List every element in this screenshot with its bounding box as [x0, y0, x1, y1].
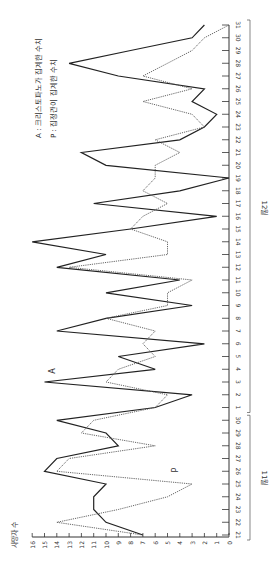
value-tick-label: 11 [90, 541, 97, 549]
date-tick-label: 9 [235, 304, 242, 308]
date-tick-label: 29 [235, 429, 242, 437]
value-tick-label: 12 [78, 541, 85, 549]
date-tick-label: 13 [235, 251, 242, 259]
value-tick-label: 8 [127, 541, 134, 545]
date-tick-label: 2 [235, 393, 242, 397]
date-tick-label: 8 [235, 316, 242, 320]
value-tick-label: 13 [66, 541, 73, 549]
month-bracket-dec [247, 20, 250, 413]
series-tag-p: P [171, 467, 180, 472]
value-tick-label: 7 [139, 541, 146, 545]
month-label-nov: 11월 [260, 471, 269, 486]
date-tick-label: 25 [235, 480, 242, 488]
date-tick-label: 3 [235, 380, 242, 384]
date-tick-label: 10 [235, 289, 242, 297]
date-tick-label: 27 [235, 455, 242, 463]
value-tick-label: 16 [29, 541, 36, 549]
date-tick-label: 24 [235, 493, 242, 501]
series-line-a [32, 25, 229, 535]
date-tick-label: 11 [235, 276, 242, 284]
date-tick-label: 4 [235, 367, 242, 371]
date-tick-label: 27 [235, 72, 242, 80]
date-tick-label: 14 [235, 238, 242, 246]
value-tick-label: 14 [53, 541, 60, 549]
date-tick-label: 22 [235, 136, 242, 144]
date-tick-label: 20 [235, 161, 242, 169]
date-tick-label: 7 [235, 329, 242, 333]
value-axis: 012345678910111213141516 [29, 533, 233, 549]
date-tick-label: 31 [235, 21, 242, 29]
month-bracket-nov [247, 415, 250, 540]
date-tick-label: 23 [235, 123, 242, 131]
date-tick-label: 17 [235, 200, 242, 208]
legend-item-a: A : 크리스토파노가 집계한 수치 [34, 38, 43, 138]
value-tick-label: 2 [201, 541, 208, 545]
value-tick-label: 5 [164, 541, 171, 545]
date-tick-label: 23 [235, 506, 242, 514]
series-tag-a: A [48, 368, 57, 374]
date-tick-label: 26 [235, 85, 242, 93]
series-line-p [57, 25, 229, 535]
date-tick-label: 1 [235, 406, 242, 410]
date-tick-label: 30 [235, 416, 242, 424]
date-tick-label: 15 [235, 225, 242, 233]
date-tick-label: 6 [235, 342, 242, 346]
legend-item-p: P : 집정관이 집계한 수치 [49, 59, 58, 138]
series-layer [32, 25, 229, 535]
value-tick-label: 3 [189, 541, 196, 545]
date-tick-label: 19 [235, 174, 242, 182]
date-tick-label: 30 [235, 34, 242, 42]
date-tick-label: 26 [235, 467, 242, 475]
date-tick-label: 24 [235, 110, 242, 118]
date-tick-label: 5 [235, 355, 242, 359]
date-tick-label: 12 [235, 263, 242, 271]
date-tick-label: 16 [235, 212, 242, 220]
date-tick-label: 28 [235, 442, 242, 450]
date-tick-label: 28 [235, 59, 242, 67]
chart-canvas: 012345678910111213141516 212223242526272… [0, 0, 279, 576]
date-tick-label: 21 [235, 149, 242, 157]
date-tick-label: 25 [235, 98, 242, 106]
line-chart: 012345678910111213141516 212223242526272… [0, 0, 279, 576]
date-axis: 2122232425262728293012345678910111213141… [222, 20, 250, 540]
value-tick-label: 15 [41, 541, 48, 549]
legend: A : 크리스토파노가 집계한 수치 P : 집정관이 집계한 수치 [34, 38, 58, 138]
month-label-dec: 12월 [260, 201, 269, 216]
value-tick-label: 10 [103, 541, 110, 549]
value-tick-label: 0 [226, 541, 233, 545]
date-tick-label: 29 [235, 47, 242, 55]
value-tick-label: 6 [152, 541, 159, 545]
date-tick-label: 18 [235, 187, 242, 195]
date-tick-label: 22 [235, 518, 242, 526]
date-tick-label: 21 [235, 531, 242, 539]
y-axis-title: 사망자 수 [10, 521, 19, 548]
value-tick-label: 1 [213, 541, 220, 545]
value-tick-label: 9 [115, 541, 122, 545]
value-tick-label: 4 [176, 541, 183, 545]
